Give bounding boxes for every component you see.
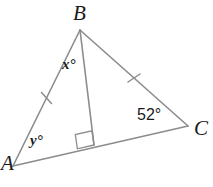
altitude-bd xyxy=(80,30,94,145)
triangle-figure-svg xyxy=(0,0,213,187)
angle-label-52-degrees: 52° xyxy=(137,107,161,123)
vertex-label-c: C xyxy=(194,118,208,139)
angle-label-y: y° xyxy=(30,133,43,148)
geometry-diagram: B A C x° y° 52° xyxy=(0,0,213,187)
tick-mark-ab-icon xyxy=(42,93,52,104)
angle-label-x: x° xyxy=(62,57,76,72)
right-angle-marker-icon xyxy=(75,131,94,149)
vertex-label-a: A xyxy=(1,153,14,174)
vertex-label-b: B xyxy=(73,3,86,24)
